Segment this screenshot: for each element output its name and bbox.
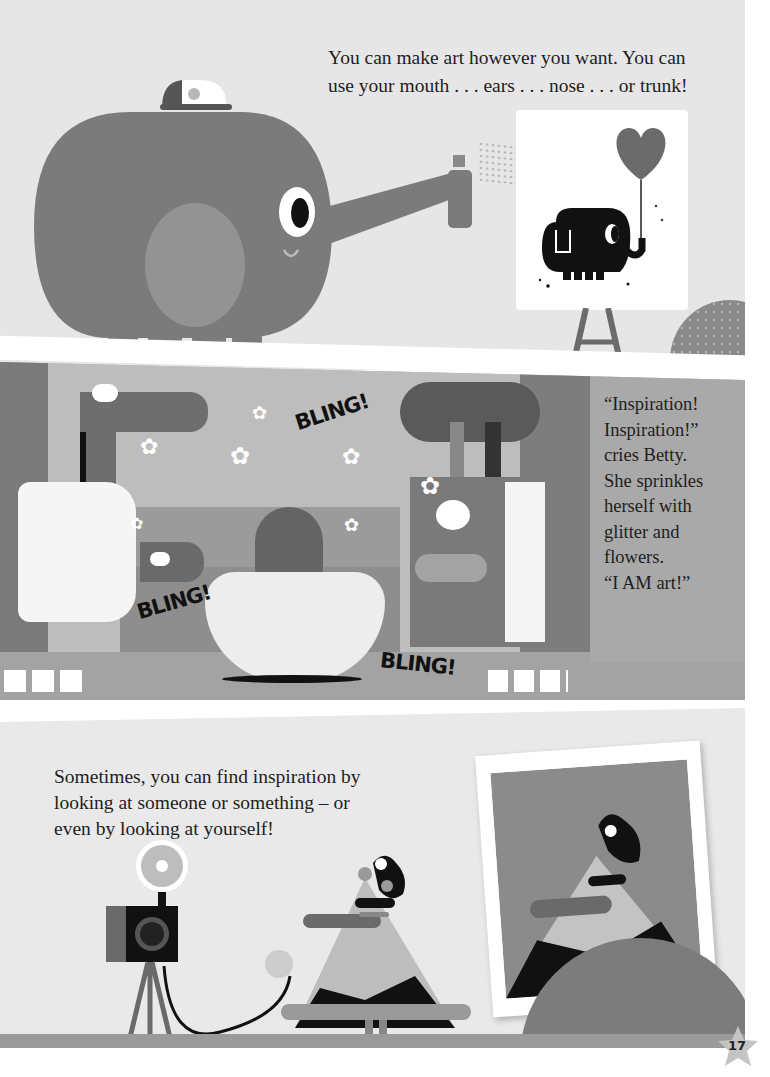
flower-icon: ✿ [230, 442, 248, 460]
panel-middle-caption: “Inspiration! Inspiration!” cries Betty.… [604, 392, 744, 596]
cow-eyes [436, 500, 470, 530]
paint-cups-right [488, 670, 568, 692]
page-number: 17 [728, 1038, 746, 1053]
flower-icon: ✿ [140, 434, 158, 452]
flower-icon: ✿ [420, 472, 438, 490]
caption-line: She sprinkles [604, 469, 744, 495]
flower-icon: ✿ [344, 514, 362, 532]
paint-cups-left [4, 670, 84, 692]
flower-icon: ✿ [130, 514, 148, 532]
giraffe-eyes [92, 384, 118, 402]
cow-white-cloth [505, 482, 545, 642]
betty-character [255, 848, 495, 1048]
caption-line: looking at someone or something – or [54, 790, 474, 816]
panel-bottom-caption: Sometimes, you can find inspiration by l… [54, 764, 474, 842]
easel-canvas [516, 110, 688, 310]
caption-line: Sometimes, you can find inspiration by [54, 764, 474, 790]
page-number-star: 17 [716, 1024, 760, 1068]
panel-top: You can make art however you want. You c… [0, 0, 745, 370]
panel-bottom: Sometimes, you can find inspiration by l… [0, 708, 745, 1048]
caption-line: “Inspiration! [604, 392, 744, 418]
cow-snout [415, 554, 487, 582]
sheep [18, 482, 136, 622]
tree [400, 382, 540, 442]
donkey-eyes [150, 552, 170, 566]
donkey [140, 542, 204, 582]
caption-line: herself with [604, 494, 744, 520]
caption-line: cries Betty. [604, 443, 744, 469]
betty-shadow [222, 675, 362, 683]
caption-line: glitter and [604, 520, 744, 546]
elephant-illustration [0, 60, 480, 360]
caption-line: Inspiration!” [604, 418, 744, 444]
balloon-elephant-drawing [516, 110, 688, 310]
flower-icon: ✿ [342, 444, 360, 462]
caption-line: “I AM art!” [604, 571, 744, 597]
ground-strip [0, 1034, 745, 1048]
caption-line: flowers. [604, 545, 744, 571]
panel-middle: ✿ ✿ ✿ ✿ ✿ ✿ ✿ BLING! BLING! BLING! “Insp… [0, 362, 745, 700]
flower-icon: ✿ [252, 402, 270, 420]
